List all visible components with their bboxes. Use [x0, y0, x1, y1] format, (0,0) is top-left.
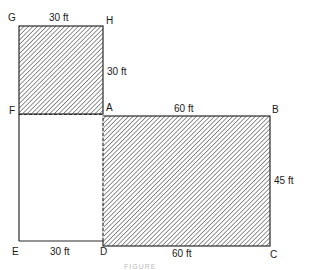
- vertex-label-a: A: [106, 103, 113, 113]
- vertex-label-b: B: [272, 105, 279, 115]
- rectangle-abcd: [103, 116, 270, 246]
- figure-caption: FIGURE: [124, 263, 156, 270]
- vertex-label-f: F: [9, 106, 15, 116]
- vertex-label-c: C: [270, 250, 277, 260]
- vertex-label-e: E: [12, 247, 19, 257]
- dimension-ha: 30 ft: [107, 67, 126, 77]
- vertex-label-d: D: [100, 247, 107, 257]
- dimension-ed: 30 ft: [50, 247, 69, 257]
- dimension-bc: 45 ft: [274, 176, 293, 186]
- dimension-gh: 30 ft: [49, 13, 68, 23]
- vertex-label-g: G: [8, 13, 16, 23]
- dimension-ab: 60 ft: [174, 104, 193, 114]
- square-ghaf: [19, 26, 103, 114]
- dimension-dc: 60 ft: [172, 249, 191, 259]
- diagram-canvas: [0, 0, 309, 270]
- vertex-label-h: H: [106, 16, 113, 26]
